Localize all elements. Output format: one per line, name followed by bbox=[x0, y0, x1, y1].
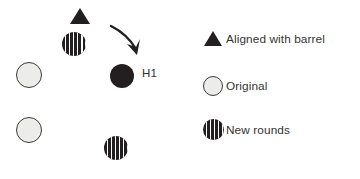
hatch-stripes bbox=[62, 32, 86, 56]
original-marker-upper-left bbox=[16, 62, 42, 88]
new-round-marker-top bbox=[62, 32, 86, 56]
hatched-circle-icon bbox=[200, 119, 226, 140]
legend-label-new-rounds: New rounds bbox=[226, 123, 290, 137]
legend-item-new-rounds: New rounds bbox=[200, 119, 290, 140]
legend-item-aligned-with-barrel: Aligned with barrel bbox=[200, 31, 325, 46]
curved-arrow-icon bbox=[108, 22, 154, 64]
original-marker-lower-left bbox=[16, 117, 42, 143]
h1-hit-marker bbox=[110, 64, 134, 88]
legend-label-original: Original bbox=[226, 79, 267, 93]
h1-label: H1 bbox=[142, 67, 157, 79]
legend-item-original: Original bbox=[200, 76, 267, 96]
light-circle-icon bbox=[200, 76, 226, 96]
aligned-with-barrel-triangle bbox=[70, 8, 90, 24]
diagram-canvas: H1 Aligned with barrel Original New roun… bbox=[0, 0, 360, 179]
triangle-icon bbox=[200, 31, 226, 46]
hatch-stripes bbox=[104, 136, 128, 160]
legend-label-aligned-with-barrel: Aligned with barrel bbox=[226, 32, 325, 46]
new-round-marker-right bbox=[104, 136, 128, 160]
